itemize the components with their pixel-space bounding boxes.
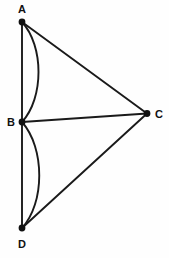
vertex-dot-a: [19, 19, 26, 26]
vertex-dot-c: [144, 110, 151, 117]
vertex-dot-group: [19, 19, 151, 232]
geometry-figure-canvas: A B C D: [0, 0, 169, 258]
vertex-label-c: C: [155, 108, 163, 120]
arc-b-d: [22, 122, 39, 228]
geometry-figure-svg: A B C D: [0, 0, 169, 258]
segment-group: [22, 22, 147, 228]
vertex-label-d: D: [18, 238, 26, 250]
arc-group: [22, 22, 39, 228]
segment-d-c: [22, 114, 147, 229]
vertex-label-b: B: [7, 116, 15, 128]
segment-b-c: [22, 114, 147, 123]
vertex-label-group: A B C D: [7, 3, 163, 250]
arc-a-b: [22, 22, 39, 122]
vertex-label-a: A: [18, 3, 26, 15]
segment-a-c: [22, 22, 147, 114]
vertex-dot-d: [19, 225, 26, 232]
vertex-dot-b: [19, 119, 26, 126]
